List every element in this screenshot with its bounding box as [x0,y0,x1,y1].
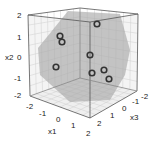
3d-scatter-plot: 2 1 0 -1 -2 x2 -2 -1 0 1 2 x1 2 1 0 -1 -… [0,0,158,141]
x1-tick-1: 1 [71,121,76,130]
x1-tick-0: 0 [56,115,61,124]
x2-tick-1: 1 [17,33,22,42]
x2-axis: 2 1 0 -1 -2 x2 [5,11,22,100]
x2-tick-0: 0 [17,53,22,62]
x3-axis-title: x3 [130,113,139,122]
x1-tick-neg1: -1 [39,109,47,118]
x3-tick-neg1: -1 [132,97,140,106]
x3-tick-0: 0 [122,104,127,113]
x3-tick-1: 1 [110,111,115,120]
x2-axis-title: x2 [5,53,14,62]
x1-tick-neg2: -2 [26,102,34,111]
x1-axis-title: x1 [48,127,57,136]
x2-tick-neg1: -1 [14,74,22,83]
x3-tick-2: 2 [97,119,102,128]
x2-tick-2: 2 [17,11,22,20]
x3-tick-neg2: -2 [141,92,149,101]
x1-tick-2: 2 [86,129,91,138]
x2-tick-neg2: -2 [14,91,22,100]
